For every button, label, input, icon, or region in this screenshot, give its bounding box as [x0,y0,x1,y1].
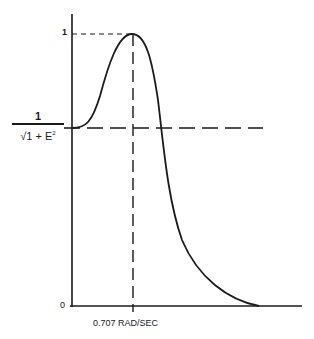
response-plot [0,0,314,339]
denominator-text: √1 + E [20,129,52,141]
ripple-level-label: 1 √1 + E2 [12,110,64,141]
ripple-numerator: 1 [12,110,64,122]
denominator-exponent: 2 [52,130,55,136]
ripple-denominator: √1 + E2 [12,127,64,142]
x-tick-label: 0.707 RAD/SEC [93,318,158,328]
y-tick-zero: 0 [60,300,65,310]
fraction-bar [12,123,64,125]
y-tick-one: 1 [62,27,67,37]
response-curve [72,34,259,306]
